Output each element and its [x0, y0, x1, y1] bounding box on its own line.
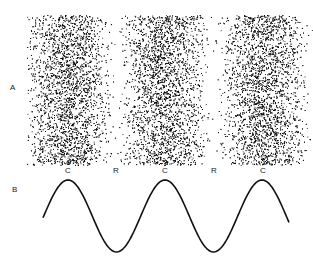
- compression-rarefaction-stipple: [27, 15, 313, 166]
- panel-b-label: B: [12, 186, 17, 194]
- band-label-r2: R: [211, 167, 217, 175]
- band-label-r1: R: [113, 167, 119, 175]
- band-label-c2: C: [162, 167, 168, 175]
- band-label-c1: C: [65, 167, 71, 175]
- band-label-c3: C: [260, 167, 266, 175]
- diagram-figure: [0, 0, 313, 268]
- panel-a-label: A: [10, 84, 15, 92]
- pressure-sine-wave: [43, 180, 289, 252]
